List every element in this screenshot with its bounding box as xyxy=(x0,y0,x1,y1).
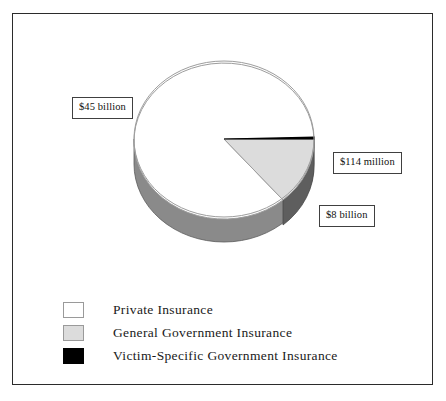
legend-swatch-private-insurance xyxy=(63,302,84,318)
callout-general-government-insurance: $8 billion xyxy=(319,205,375,227)
figure-frame: $45 billion $114 million $8 billion Priv… xyxy=(12,13,433,385)
legend-item-private-insurance[interactable]: Private Insurance xyxy=(63,298,423,321)
legend-label-general-government-insurance: General Government Insurance xyxy=(113,325,292,341)
legend-swatch-general-government-insurance xyxy=(63,325,84,341)
legend-item-general-government-insurance[interactable]: General Government Insurance xyxy=(63,321,423,344)
legend-swatch-victim-specific-government-insurance xyxy=(63,348,84,364)
pie-chart: $45 billion $114 million $8 billion xyxy=(13,14,434,294)
legend-label-victim-specific-government-insurance: Victim-Specific Government Insurance xyxy=(113,348,338,364)
chart-legend: Private Insurance General Government Ins… xyxy=(63,298,423,367)
callout-private-insurance: $45 billion xyxy=(72,97,133,119)
legend-label-private-insurance: Private Insurance xyxy=(113,302,213,318)
legend-item-victim-specific-government-insurance[interactable]: Victim-Specific Government Insurance xyxy=(63,344,423,367)
callout-victim-specific-government-insurance: $114 million xyxy=(333,152,402,174)
